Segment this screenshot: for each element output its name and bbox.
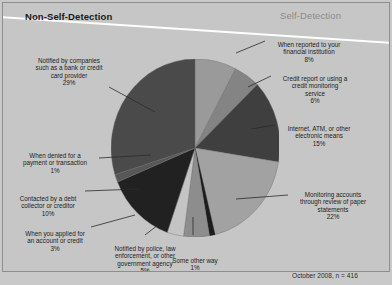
chart-frame: Non-Self-Detection Self-Detection [2, 2, 390, 272]
callout-reported-financial: When reported to your financial institut… [263, 33, 355, 71]
callout-some-other-way: Some other way 1% [163, 249, 227, 272]
callout-text: When reported to your financial institut… [278, 41, 341, 56]
callout-applied-account: When you applied for an account or credi… [13, 222, 97, 260]
callout-value: 10% [6, 210, 90, 218]
pie-svg [111, 59, 279, 237]
callout-internet-atm: Internet, ATM, or other electronic means… [271, 117, 367, 155]
callout-value: 8% [263, 56, 355, 64]
callout-text: Contacted by a debt collector or credito… [20, 195, 76, 210]
section-title-non-self-detection: Non-Self-Detection [25, 11, 112, 22]
callout-value: 3% [13, 245, 97, 253]
callout-text: Credit report or using a credit monitori… [283, 75, 347, 97]
callout-notified-companies: Notified by companies such as a bank or … [17, 49, 121, 95]
callout-debt-collector: Contacted by a debt collector or credito… [6, 187, 90, 225]
callout-text: Notified by companies such as a bank or … [36, 57, 103, 79]
callout-value: 1% [163, 264, 227, 272]
callout-monitoring-accounts: Monitoring accounts through review of pa… [283, 183, 383, 229]
callout-text: Monitoring accounts through review of pa… [300, 191, 366, 213]
callout-text: Internet, ATM, or other electronic means [288, 125, 351, 140]
callout-when-denied: When denied for a payment or transaction… [9, 144, 101, 182]
callout-value: 6% [267, 97, 363, 105]
source-note: October 2008, n = 416 [292, 272, 358, 279]
pie-chart [111, 59, 279, 237]
callout-text: When denied for a payment or transaction [23, 152, 87, 167]
callout-value: 15% [271, 140, 367, 148]
callout-value: 1% [9, 167, 101, 175]
callout-text: Some other way [172, 257, 218, 264]
callout-value: 29% [17, 79, 121, 87]
callout-credit-report: Credit report or using a credit monitori… [267, 67, 363, 113]
section-title-self-detection: Self-Detection [280, 10, 341, 21]
callout-value: 22% [283, 213, 383, 221]
callout-text: When you applied for an account or credi… [25, 230, 85, 245]
